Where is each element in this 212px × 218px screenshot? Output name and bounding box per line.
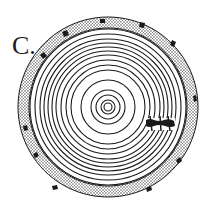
growth-ring	[96, 95, 120, 119]
growth-ring	[66, 65, 150, 149]
figure-label: C.	[12, 33, 36, 59]
growth-ring	[101, 100, 115, 114]
growth-ring	[81, 80, 135, 134]
growth-ring	[35, 34, 181, 180]
growth-ring	[56, 55, 160, 159]
growth-rings	[30, 29, 186, 185]
growth-ring	[40, 39, 176, 175]
growth-ring	[30, 29, 186, 185]
growth-ring	[44, 43, 172, 171]
bark	[18, 17, 198, 197]
growth-ring	[71, 70, 145, 144]
growth-ring	[52, 51, 164, 163]
growth-ring	[61, 60, 155, 154]
growth-ring	[104, 103, 112, 111]
scar-mark	[146, 116, 176, 131]
figure: C.	[0, 0, 212, 218]
